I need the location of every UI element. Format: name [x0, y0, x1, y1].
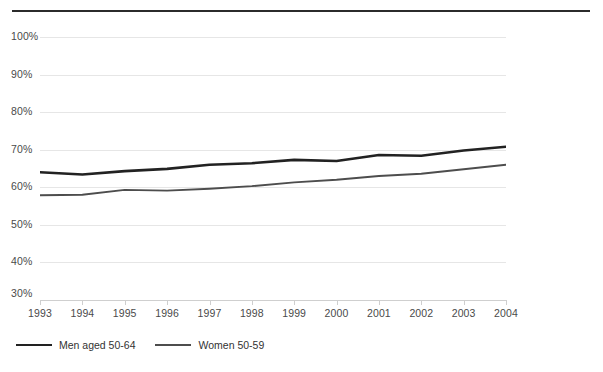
gridline-30-baseline: [40, 300, 506, 301]
legend: Men aged 50-64 Women 50-59: [16, 339, 264, 351]
x-tick-label-2000: 2000: [317, 307, 357, 319]
legend-label-men: Men aged 50-64: [59, 339, 135, 351]
x-tick-label-1998: 1998: [232, 307, 272, 319]
x-tick-2001: [379, 300, 380, 305]
chart-container: 100% 90% 80% 70% 60% 50% 40% 30% 1993 19…: [0, 0, 603, 372]
x-tick-label-2002: 2002: [401, 307, 441, 319]
x-tick-2004: [506, 300, 507, 305]
x-tick-label-1993: 1993: [20, 307, 60, 319]
x-tick-2003: [464, 300, 465, 305]
x-tick-1993: [40, 300, 41, 305]
x-tick-2000: [337, 300, 338, 305]
x-tick-label-1997: 1997: [190, 307, 230, 319]
legend-item-women[interactable]: Women 50-59: [155, 339, 264, 351]
legend-swatch-women-icon: [155, 344, 191, 346]
x-tick-1998: [252, 300, 253, 305]
x-tick-label-1995: 1995: [105, 307, 145, 319]
x-tick-label-1996: 1996: [147, 307, 187, 319]
series-lines: [40, 37, 506, 300]
line-series-women: [40, 165, 506, 195]
x-tick-label-2004: 2004: [486, 307, 526, 319]
x-tick-1996: [167, 300, 168, 305]
line-series-men: [40, 147, 506, 175]
x-tick-label-1999: 1999: [274, 307, 314, 319]
x-tick-label-2001: 2001: [359, 307, 399, 319]
x-tick-label-1994: 1994: [62, 307, 102, 319]
x-tick-1999: [294, 300, 295, 305]
x-tick-1997: [210, 300, 211, 305]
x-tick-label-2003: 2003: [444, 307, 484, 319]
legend-item-men[interactable]: Men aged 50-64: [16, 339, 135, 351]
x-tick-1994: [82, 300, 83, 305]
legend-label-women: Women 50-59: [198, 339, 264, 351]
x-tick-1995: [125, 300, 126, 305]
top-divider-rule: [12, 10, 590, 12]
legend-swatch-men-icon: [16, 344, 52, 347]
x-tick-2002: [421, 300, 422, 305]
